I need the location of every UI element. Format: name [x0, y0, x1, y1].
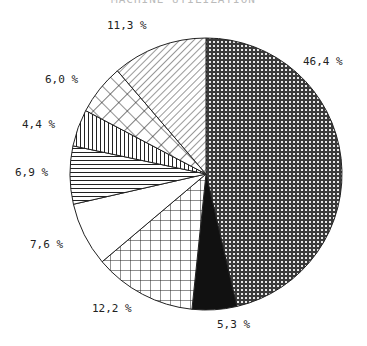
pie-chart — [0, 0, 367, 346]
slice-label: 12,2 % — [92, 302, 132, 315]
slice-label: 46,4 % — [303, 55, 343, 68]
slice-label: 7,6 % — [30, 238, 63, 251]
slice-label: 11,3 % — [107, 19, 147, 32]
slice-label: 6,9 % — [15, 166, 48, 179]
slice-label: 6,0 % — [45, 73, 78, 86]
slice-label: 4,4 % — [22, 118, 55, 131]
slice-label: 5,3 % — [217, 318, 250, 331]
